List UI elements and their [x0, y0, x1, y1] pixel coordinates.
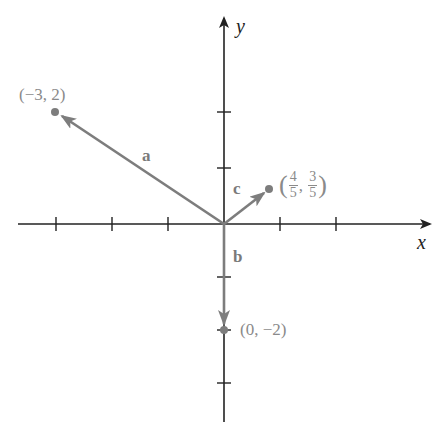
vector-a-label: a: [142, 147, 151, 164]
diagram-canvas: [0, 0, 437, 434]
fraction-y: 35: [308, 170, 317, 200]
vector-a: [62, 116, 224, 224]
x-axis-label: x: [417, 232, 426, 252]
vector-b-label: b: [233, 248, 242, 265]
fraction-x: 45: [289, 170, 298, 200]
point-a: [51, 108, 59, 116]
vector-c-label: c: [233, 180, 241, 197]
point-c: [265, 185, 273, 193]
point-b: [220, 326, 228, 334]
y-axis-label: y: [236, 16, 245, 36]
vector-c: [224, 193, 264, 224]
point-a-label: (−3, 2): [19, 86, 65, 103]
point-c-label: (45, 35): [279, 170, 327, 200]
vector-diagram: y x a b c (−3, 2) (0, −2) (45, 35): [0, 0, 437, 434]
point-b-label: (0, −2): [240, 321, 286, 338]
